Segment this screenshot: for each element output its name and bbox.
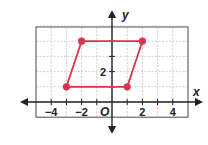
vertex-point bbox=[78, 38, 85, 45]
y-axis-label: y bbox=[121, 8, 130, 22]
x-tick-label: −2 bbox=[75, 106, 88, 118]
coordinate-plane: −4−2242 x y O bbox=[0, 0, 208, 145]
parallelogram bbox=[66, 41, 142, 87]
x-tick-label: −4 bbox=[45, 106, 58, 118]
origin-label: O bbox=[100, 105, 110, 119]
vertex-point bbox=[139, 38, 146, 45]
polygon-layer bbox=[63, 38, 146, 91]
y-axis-up-arrow bbox=[108, 10, 116, 18]
x-axis-right-arrow bbox=[195, 98, 203, 106]
vertex-point bbox=[63, 83, 70, 90]
x-axis-label: x bbox=[192, 85, 201, 99]
vertex-point bbox=[124, 83, 131, 90]
y-axis-down-arrow bbox=[108, 126, 116, 134]
tick-labels: −4−2242 bbox=[45, 66, 177, 118]
x-axis-left-arrow bbox=[20, 98, 28, 106]
y-tick-label: 2 bbox=[100, 66, 106, 78]
x-tick-label: 2 bbox=[139, 106, 145, 118]
x-tick-label: 4 bbox=[170, 106, 177, 118]
